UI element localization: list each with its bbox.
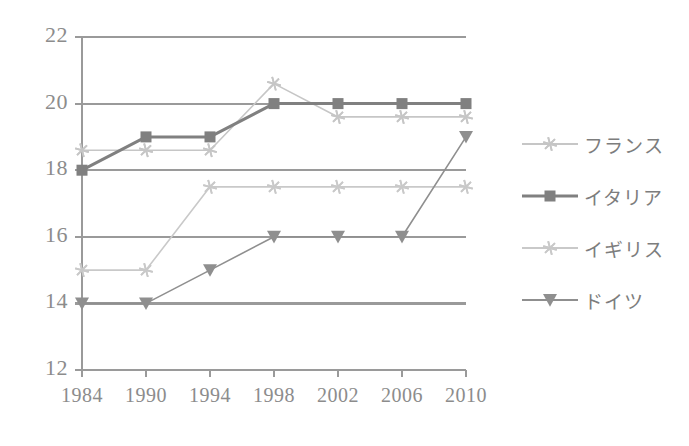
data-point-marker <box>267 77 281 91</box>
series-line <box>82 187 466 270</box>
x-tick-label: 1984 <box>47 384 117 407</box>
legend-item-1[interactable]: イタリア <box>520 170 685 222</box>
y-tick-label: 14 <box>22 288 68 314</box>
y-tick-label: 20 <box>22 89 68 115</box>
x-tick-label: 2006 <box>367 384 437 407</box>
x-tick-label: 1990 <box>111 384 181 407</box>
series-line <box>82 104 466 171</box>
data-point-marker <box>545 191 556 202</box>
series-line <box>82 137 466 304</box>
legend-swatch-star-icon <box>520 237 580 259</box>
data-point-marker <box>141 131 152 142</box>
chart-legend: フランスイタリアイギリスドイツ <box>520 118 685 326</box>
legend-label: ドイツ <box>580 287 644 314</box>
data-point-marker <box>203 264 217 277</box>
series-2 <box>75 180 473 277</box>
y-tick-label: 16 <box>22 222 68 248</box>
x-tick-label: 1998 <box>239 384 309 407</box>
data-point-marker <box>397 98 408 109</box>
legend-swatch-square-icon <box>520 185 580 207</box>
x-tick-label: 1994 <box>175 384 245 407</box>
data-series-layer <box>75 77 473 310</box>
y-tick-label: 22 <box>22 22 68 48</box>
x-tick-label: 2010 <box>431 384 501 407</box>
data-point-marker <box>459 131 473 144</box>
data-point-marker <box>269 98 280 109</box>
line-chart: 222018161412 198419901994199820022006201… <box>0 0 689 446</box>
data-point-marker <box>461 98 472 109</box>
series-3 <box>75 131 473 310</box>
legend-label: フランス <box>580 131 664 158</box>
y-tick-label: 18 <box>22 155 68 181</box>
legend-item-0[interactable]: フランス <box>520 118 685 170</box>
data-point-marker <box>333 98 344 109</box>
legend-label: イタリア <box>580 183 663 210</box>
data-point-marker <box>77 165 88 176</box>
series-1 <box>77 98 472 176</box>
data-point-marker <box>205 131 216 142</box>
legend-label: イギリス <box>580 235 664 262</box>
legend-item-3[interactable]: ドイツ <box>520 274 685 326</box>
y-tick-label: 12 <box>22 355 68 381</box>
legend-swatch-triangle-down-icon <box>520 289 580 311</box>
legend-item-2[interactable]: イギリス <box>520 222 685 274</box>
legend-swatch-star-icon <box>520 133 580 155</box>
x-tick-label: 2002 <box>303 384 373 407</box>
series-0 <box>75 77 473 157</box>
